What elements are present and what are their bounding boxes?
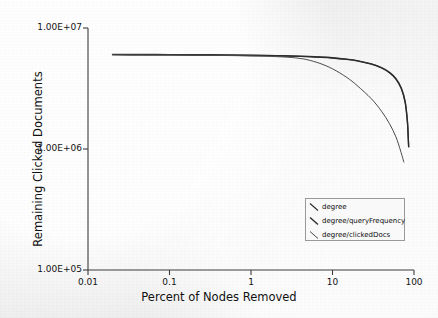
x-axis-title: Percent of Nodes Removed [0, 290, 438, 304]
x-tick-label: 0.1 [140, 277, 200, 287]
legend-line-icon [309, 230, 320, 240]
y-axis-title: Remaining Clicked Documents [31, 59, 45, 259]
x-tick-label: 100 [384, 277, 438, 287]
y-axis-ticks [83, 28, 88, 270]
legend-item: degree [309, 201, 404, 213]
chart-legend[interactable]: degree degree/queryFrequency degree/clic… [305, 198, 405, 241]
legend-line-icon [309, 202, 320, 212]
legend-item: degree/queryFrequency [309, 215, 404, 227]
chart-figure: Remaining Clicked Documents Percent of N… [0, 0, 438, 318]
legend-label: degree [322, 203, 347, 211]
legend-item: degree/clickedDocs [309, 229, 404, 241]
y-tick-label: 1.00E+05 [28, 264, 82, 274]
legend-label: degree/clickedDocs [322, 231, 390, 239]
series-line [113, 55, 409, 147]
y-tick-label: 1.00E+06 [28, 143, 82, 153]
legend-line-icon [309, 216, 320, 226]
legend-label: degree/queryFrequency [322, 217, 405, 225]
data-series-group [113, 54, 409, 162]
x-tick-label: 1 [221, 277, 281, 287]
series-line [113, 55, 404, 162]
y-tick-label: 1.00E+07 [28, 22, 82, 32]
x-axis-ticks [88, 270, 414, 275]
series-line [113, 54, 409, 146]
x-tick-label: 0.01 [58, 277, 118, 287]
x-tick-label: 10 [303, 277, 363, 287]
